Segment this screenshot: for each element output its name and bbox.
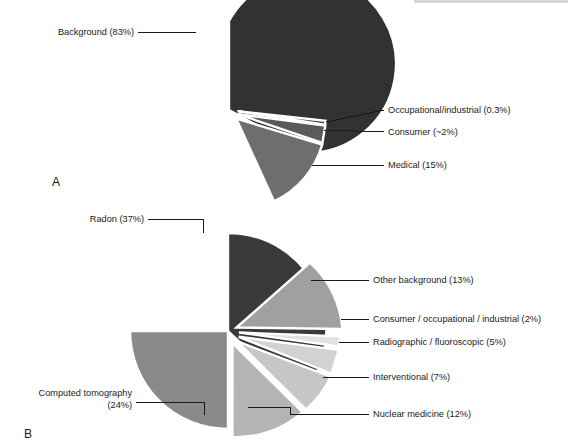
panel-letter-a: A xyxy=(52,175,60,189)
radiation-dose-pie-figure: Background (83%) Occupational/industrial… xyxy=(0,0,568,446)
callout-a-medical: Medical (15%) xyxy=(388,160,447,170)
callout-b-other-background: Other background (13%) xyxy=(373,275,474,285)
panel-letter-b: B xyxy=(24,427,32,441)
callout-b-consumer-occupational-industrial: Consumer / occupational / industrial (2%… xyxy=(373,314,541,324)
callout-a-occupational-industrial: Occupational/industrial (0.3%) xyxy=(388,105,511,115)
callout-b-computed-tomography-line1: Computed tomography xyxy=(39,388,133,398)
pie-chart-b: Radon (37%) Other background (13%) Consu… xyxy=(24,214,541,441)
callout-b-nuclear-medicine: Nuclear medicine (12%) xyxy=(373,409,471,419)
callout-a-consumer: Consumer (~2%) xyxy=(388,127,458,137)
pie-chart-a: Background (83%) Occupational/industrial… xyxy=(52,0,511,201)
callout-b-computed-tomography-line2: (24%) xyxy=(107,400,132,410)
leader-b-radon xyxy=(148,219,203,233)
callout-b-interventional: Interventional (7%) xyxy=(373,372,450,382)
slice-b-computed-tomography[interactable] xyxy=(130,331,228,429)
callout-a-background: Background (83%) xyxy=(58,27,134,37)
callout-b-radiographic-fluoroscopic: Radiographic / fluoroscopic (5%) xyxy=(373,337,506,347)
callout-b-radon: Radon (37%) xyxy=(90,214,144,224)
